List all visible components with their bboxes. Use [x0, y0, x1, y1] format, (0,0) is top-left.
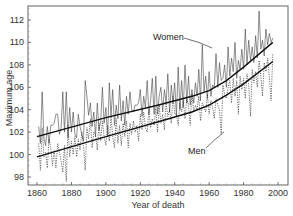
women-label: Women [153, 32, 184, 42]
annotations: Women Men [153, 32, 224, 156]
y-axis-title: Maximum age [4, 70, 14, 127]
x-axis-title: Year of death [131, 200, 184, 210]
women-arrow-icon [184, 38, 212, 48]
chart: 98100102104106108110112 1860188019001920… [0, 0, 293, 216]
y-tick-label: 110 [10, 37, 24, 47]
y-tick-label: 108 [9, 60, 24, 70]
x-tick-label: 1940 [165, 188, 185, 198]
y-tick-label: 102 [9, 127, 24, 137]
x-tick-label: 2000 [268, 188, 288, 198]
men-trend-line [37, 62, 273, 157]
x-axis: 18601880190019201940196019802000 [27, 182, 288, 198]
y-tick-label: 98 [14, 172, 24, 182]
y-tick-label: 100 [9, 150, 24, 160]
x-tick-label: 1900 [96, 188, 116, 198]
x-tick-label: 1960 [199, 188, 219, 198]
x-tick-label: 1920 [130, 188, 150, 198]
x-tick-label: 1980 [234, 188, 254, 198]
x-tick-label: 1860 [27, 188, 47, 198]
y-tick-label: 112 [10, 15, 24, 25]
men-arrow-icon [206, 132, 224, 148]
men-label: Men [188, 146, 206, 156]
x-tick-label: 1880 [61, 188, 81, 198]
